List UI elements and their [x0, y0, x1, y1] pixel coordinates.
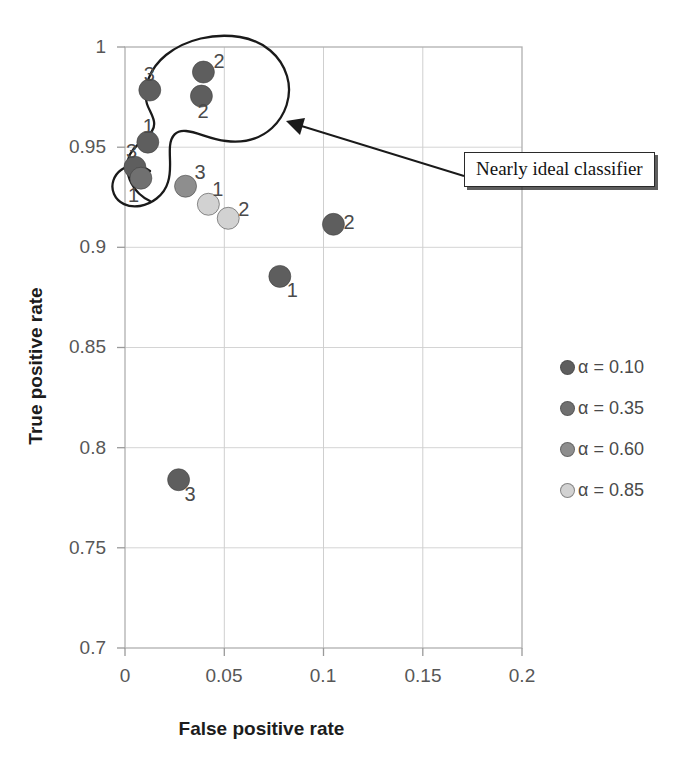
legend-label: α = 0.35	[578, 398, 644, 419]
x-tick-label-0: 0	[95, 665, 155, 687]
x-tick-label-015: 0.15	[393, 665, 453, 687]
y-tick-label-075: 0.75	[44, 537, 106, 559]
data-point-label: 3	[195, 161, 206, 184]
nearly-ideal-classifier-callout: Nearly ideal classifier	[464, 152, 655, 187]
legend-swatch-icon	[560, 442, 575, 457]
legend-item[interactable]: α = 0.10	[560, 352, 683, 382]
data-point-label: 2	[238, 198, 249, 221]
y-tick-label-09: 0.9	[44, 236, 106, 258]
chart-container: 1 0.95 0.9 0.85 0.8 0.75 0.7 0 0.05 0.1 …	[0, 0, 683, 769]
data-point-label: 1	[128, 184, 139, 207]
legend-swatch-icon	[560, 360, 575, 375]
data-point-label: 3	[185, 483, 196, 506]
legend-item[interactable]: α = 0.35	[560, 393, 683, 423]
y-tick-label-085: 0.85	[44, 336, 106, 358]
legend-item[interactable]: α = 0.60	[560, 434, 683, 464]
y-axis-title: True positive rate	[25, 226, 47, 506]
data-point-label: 3	[144, 63, 155, 86]
data-point-label: 2	[197, 100, 208, 123]
legend-swatch-icon	[560, 401, 575, 416]
y-tick-label-07: 0.7	[44, 637, 106, 659]
data-point-label: 1	[212, 178, 223, 201]
y-tick-label-08: 0.8	[44, 437, 106, 459]
legend: α = 0.10α = 0.35α = 0.60α = 0.85	[560, 352, 683, 516]
x-axis-title: False positive rate	[0, 718, 523, 740]
y-tick-label-095: 0.95	[44, 136, 106, 158]
legend-item[interactable]: α = 0.85	[560, 475, 683, 505]
x-axis-ticks	[125, 648, 522, 656]
x-tick-label-02: 0.2	[492, 665, 552, 687]
data-point-label: 2	[343, 211, 354, 234]
data-point-label: 2	[213, 50, 224, 73]
data-point-marker	[175, 175, 197, 197]
legend-label: α = 0.10	[578, 357, 644, 378]
legend-swatch-icon	[560, 483, 575, 498]
legend-label: α = 0.60	[578, 439, 644, 460]
x-tick-label-005: 0.05	[194, 665, 254, 687]
data-point-label: 1	[287, 279, 298, 302]
data-point-marker	[192, 61, 214, 83]
y-tick-label-1: 1	[44, 36, 106, 58]
legend-label: α = 0.85	[578, 480, 644, 501]
data-point-label: 1	[143, 115, 154, 138]
data-point-marker	[217, 207, 239, 229]
data-point-marker	[322, 213, 344, 235]
x-tick-label-01: 0.1	[293, 665, 353, 687]
data-point-label: 3	[126, 140, 137, 163]
y-axis-ticks	[117, 47, 125, 648]
